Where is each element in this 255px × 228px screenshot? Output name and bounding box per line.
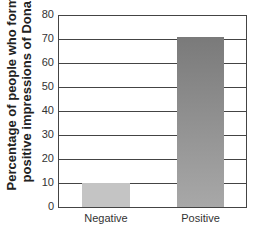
x-tick-label: Positive [166, 212, 236, 224]
y-tick-label: 0 [34, 200, 54, 212]
y-tick-label: 80 [34, 8, 54, 20]
y-tick-label: 30 [34, 128, 54, 140]
y-tick-label: 40 [34, 104, 54, 116]
axis-line [58, 15, 59, 208]
y-tick-label: 60 [34, 56, 54, 68]
x-tick-label: Negative [71, 212, 141, 224]
y-tick-label: 20 [34, 152, 54, 164]
y-tick-label: 10 [34, 176, 54, 188]
gridline [58, 15, 247, 16]
y-axis-label-line-1: Percentage of people who formed [4, 0, 19, 200]
axis-line [246, 15, 247, 208]
bar-negative [82, 183, 130, 207]
bar-positive [177, 37, 224, 207]
gridline [58, 207, 247, 208]
y-tick-label: 70 [34, 32, 54, 44]
y-axis-label: Percentage of people who formed positive… [4, 0, 44, 200]
y-tick-label: 50 [34, 80, 54, 92]
y-axis-label-line-2: positive impressions of Donald [19, 0, 34, 200]
